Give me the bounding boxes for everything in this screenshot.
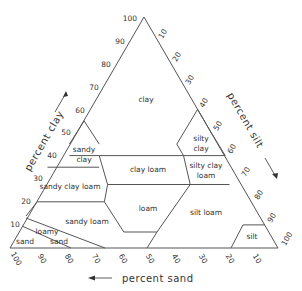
label-loamy-sand-2: sand: [50, 237, 68, 246]
svg-text:80: 80: [63, 252, 76, 265]
svg-text:70: 70: [240, 165, 253, 178]
svg-text:50: 50: [144, 252, 157, 265]
label-silty-clay-1: silty: [193, 134, 209, 143]
svg-text:40: 40: [47, 151, 57, 160]
label-sandy-loam: sandy loam: [65, 217, 108, 226]
svg-text:50: 50: [61, 128, 71, 137]
label-loamy-sand-1: loamy: [35, 227, 59, 236]
soil-texture-triangle: clay sandy clay silty clay clay loam san…: [0, 0, 302, 291]
clay-axis-ticks: 10 20 30 40 50 60 70 80 90 100: [10, 14, 137, 229]
silt-arrow-icon: [265, 158, 278, 179]
svg-text:30: 30: [33, 174, 43, 183]
svg-text:90: 90: [115, 37, 125, 46]
svg-text:20: 20: [21, 197, 31, 206]
svg-text:50: 50: [212, 119, 225, 132]
svg-text:80: 80: [101, 60, 111, 69]
svg-text:40: 40: [170, 252, 183, 265]
label-sandy-clay-1: sandy: [73, 145, 96, 154]
label-sandy-clay-loam: sandy clay loam: [39, 182, 100, 191]
svg-text:70: 70: [90, 252, 103, 265]
svg-text:30: 30: [197, 252, 210, 265]
silt-axis-ticks: 10 20 30 40 50 60 70 80 90 100: [157, 27, 295, 247]
label-clay: clay: [138, 95, 154, 104]
label-silt: silt: [246, 232, 257, 241]
label-silty-clay-loam-2: loam: [197, 171, 216, 180]
label-clay-loam: clay loam: [130, 165, 166, 174]
label-sandy-clay-2: clay: [76, 155, 92, 164]
svg-text:40: 40: [198, 96, 211, 109]
svg-text:100: 100: [279, 230, 294, 247]
svg-text:90: 90: [266, 211, 279, 224]
label-sand: sand: [16, 237, 34, 246]
svg-text:100: 100: [123, 14, 138, 23]
svg-text:70: 70: [89, 83, 99, 92]
svg-text:20: 20: [171, 50, 184, 63]
sand-axis-label: percent sand: [122, 273, 194, 284]
svg-text:20: 20: [224, 252, 237, 265]
sand-axis-ticks: 100 90 80 70 60 50 40 30 20 10: [9, 250, 264, 267]
svg-text:90: 90: [36, 252, 49, 265]
label-silty-clay-2: clay: [193, 144, 209, 153]
svg-text:60: 60: [226, 142, 239, 155]
silt-axis-label: percent silt: [225, 91, 266, 150]
svg-text:100: 100: [9, 250, 24, 267]
svg-text:10: 10: [10, 220, 20, 229]
svg-text:10: 10: [251, 252, 264, 265]
label-silt-loam: silt loam: [190, 208, 222, 217]
clay-arrow-icon: [55, 91, 68, 112]
svg-text:60: 60: [75, 106, 85, 115]
svg-text:30: 30: [184, 73, 197, 86]
sand-arrow-icon: [88, 276, 112, 281]
svg-text:10: 10: [157, 27, 170, 40]
svg-text:80: 80: [253, 188, 266, 201]
label-loam: loam: [139, 204, 158, 213]
label-silty-clay-loam-1: silty clay: [189, 161, 223, 170]
svg-text:60: 60: [117, 252, 130, 265]
